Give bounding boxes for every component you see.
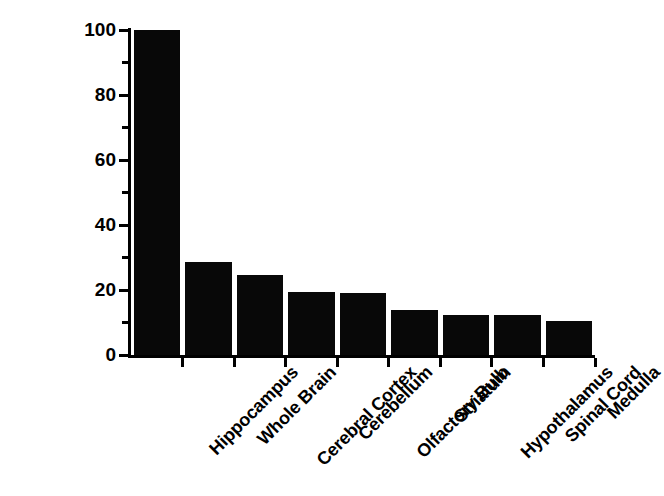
x-axis-labels: HippocampusWhole BrainCerebral CortexCer…	[131, 362, 601, 496]
y-tick-label: 40	[95, 214, 116, 236]
bar	[391, 310, 438, 355]
y-tick-minor	[122, 321, 128, 324]
y-tick-major	[119, 29, 128, 32]
plot-area: 020406080100	[131, 30, 595, 355]
y-tick-label: 20	[95, 279, 116, 301]
y-tick-major	[119, 159, 128, 162]
bar	[134, 30, 181, 355]
y-tick-label: 0	[105, 344, 116, 366]
bar	[546, 321, 593, 355]
y-tick-minor	[122, 126, 128, 129]
bar	[443, 315, 490, 355]
bar	[185, 262, 232, 355]
y-tick-minor	[122, 256, 128, 259]
y-tick-minor	[122, 61, 128, 64]
y-axis-line	[128, 28, 131, 357]
bar	[288, 292, 335, 355]
y-tick-label: 80	[95, 84, 116, 106]
y-tick-major	[119, 354, 128, 357]
x-axis-label: Striatum	[450, 362, 515, 427]
y-axis-title-line-2: (% Relative to Hippocampus)	[0, 454, 73, 496]
x-axis-line	[128, 355, 595, 358]
y-tick-label: 60	[95, 149, 116, 171]
y-tick-label: 100	[84, 19, 116, 41]
bar	[494, 315, 541, 355]
y-tick-minor	[122, 191, 128, 194]
bar	[237, 275, 284, 355]
y-axis-title: 125I-IL-1α Bound (% Relative to Hippocam…	[0, 0, 130, 400]
y-tick-major	[119, 94, 128, 97]
bar	[340, 293, 387, 355]
y-tick-major	[119, 224, 128, 227]
y-tick-major	[119, 289, 128, 292]
